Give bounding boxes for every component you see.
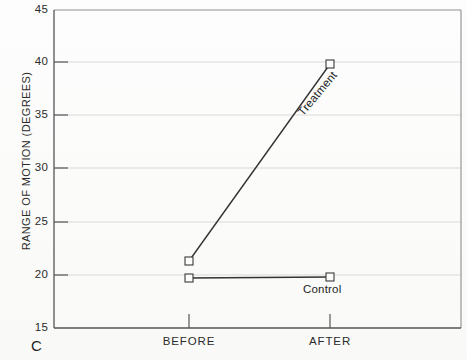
y-axis-ticks bbox=[54, 62, 68, 275]
chart-canvas bbox=[0, 0, 467, 360]
series-label-control: Control bbox=[303, 283, 341, 295]
y-tick-label-45: 45 bbox=[10, 3, 48, 15]
panel-label: C bbox=[31, 337, 42, 354]
data-point-control-after bbox=[326, 273, 334, 281]
x-axis-label-after: AFTER bbox=[280, 335, 380, 347]
series-control bbox=[185, 273, 334, 282]
x-axis-label-before: BEFORE bbox=[139, 335, 239, 347]
y-axis-title: RANGE OF MOTION (DEGREES) bbox=[20, 51, 32, 271]
data-point-control-before bbox=[185, 274, 193, 282]
figure-panel-c: 45 40 35 30 25 20 15 RANGE OF MOTION (DE… bbox=[0, 0, 467, 360]
data-point-treatment-before bbox=[185, 257, 193, 265]
data-point-treatment-after bbox=[326, 60, 334, 68]
plot-frame bbox=[54, 10, 461, 328]
x-axis-ticks bbox=[189, 314, 330, 328]
y-tick-label-15: 15 bbox=[10, 321, 48, 333]
gridlines bbox=[54, 62, 461, 275]
